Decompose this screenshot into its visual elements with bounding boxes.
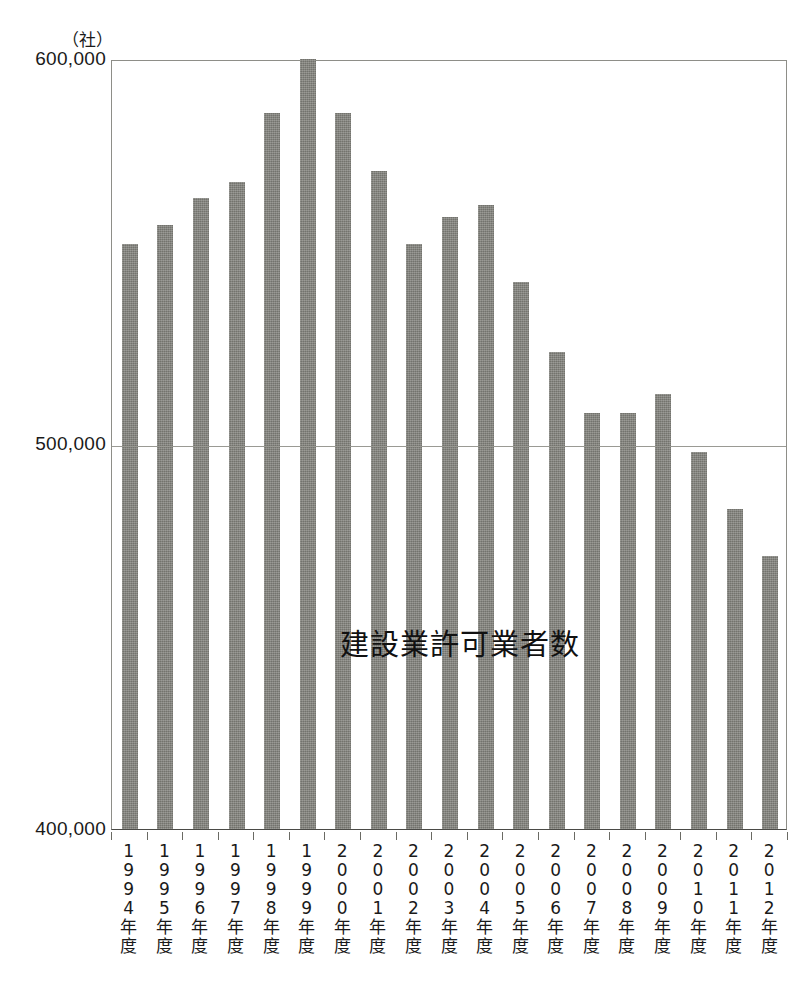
bar	[478, 205, 494, 829]
x-axis-tick	[538, 832, 539, 840]
y-axis-tick-label: 500,000	[2, 433, 106, 455]
x-axis-tick	[467, 832, 468, 840]
x-axis-tick-label: 2005年度	[509, 842, 531, 956]
bar	[620, 413, 636, 829]
x-axis-tick	[609, 832, 610, 840]
bar	[300, 59, 316, 829]
x-axis-tick-label: 2006年度	[545, 842, 567, 956]
x-axis-tick-label: 1997年度	[225, 842, 247, 956]
x-axis-tick	[574, 832, 575, 840]
x-axis-tick	[787, 832, 788, 840]
bar	[691, 452, 707, 829]
x-axis-tick-label: 2001年度	[367, 842, 389, 956]
x-axis-tick-label: 2012年度	[758, 842, 780, 956]
x-axis-tick	[716, 832, 717, 840]
bar	[513, 282, 529, 829]
x-axis-tick-label: 1996年度	[189, 842, 211, 956]
x-axis-tick	[289, 832, 290, 840]
bar	[584, 413, 600, 829]
bar	[727, 509, 743, 829]
x-axis-tick-label: 2009年度	[651, 842, 673, 956]
x-axis-tick	[111, 832, 112, 840]
x-axis-tick-labels: 1994年度1995年度1996年度1997年度1998年度1999年度2000…	[111, 832, 787, 982]
x-axis-tick-label: 2003年度	[438, 842, 460, 956]
x-axis-tick	[431, 832, 432, 840]
x-axis-tick-label: 2004年度	[474, 842, 496, 956]
x-axis-tick-label: 1995年度	[153, 842, 175, 956]
x-axis-tick-label: 1999年度	[296, 842, 318, 956]
plot-area: 建設業許可業者数	[111, 60, 787, 830]
bar	[442, 217, 458, 829]
x-axis-tick	[396, 832, 397, 840]
x-axis-tick	[502, 832, 503, 840]
bar	[229, 182, 245, 829]
bar	[549, 352, 565, 829]
bar	[655, 394, 671, 829]
y-axis-tick-labels: 400,000500,000600,000	[0, 0, 106, 992]
x-axis-tick-label: 2008年度	[616, 842, 638, 956]
x-axis-tick	[182, 832, 183, 840]
x-axis-tick-label: 2011年度	[723, 842, 745, 956]
x-axis-tick	[360, 832, 361, 840]
bar	[371, 171, 387, 829]
gridline	[112, 446, 786, 447]
bar	[122, 244, 138, 829]
x-axis-tick	[751, 832, 752, 840]
x-axis-tick-label: 2000年度	[331, 842, 353, 956]
series-caption-label: 建設業許可業者数	[340, 621, 580, 663]
x-axis-tick	[324, 832, 325, 840]
bar	[335, 113, 351, 829]
x-axis-tick-label: 1994年度	[118, 842, 140, 956]
bar	[406, 244, 422, 829]
x-axis-tick-label: 2002年度	[402, 842, 424, 956]
x-axis-tick-label: 2010年度	[687, 842, 709, 956]
bars-layer	[112, 61, 786, 829]
x-axis-tick	[218, 832, 219, 840]
x-axis-tick	[147, 832, 148, 840]
x-axis-tick-label: 1998年度	[260, 842, 282, 956]
y-axis-tick-label: 600,000	[2, 48, 106, 70]
x-axis-tick	[253, 832, 254, 840]
x-axis-tick	[645, 832, 646, 840]
x-axis-tick-label: 2007年度	[580, 842, 602, 956]
bar	[193, 198, 209, 829]
bar	[264, 113, 280, 829]
y-axis-tick-label: 400,000	[2, 818, 106, 840]
bar	[157, 225, 173, 829]
construction-license-bar-chart: （社） 400,000500,000600,000 建設業許可業者数 1994年…	[0, 0, 808, 992]
bar	[762, 556, 778, 829]
x-axis-tick	[680, 832, 681, 840]
